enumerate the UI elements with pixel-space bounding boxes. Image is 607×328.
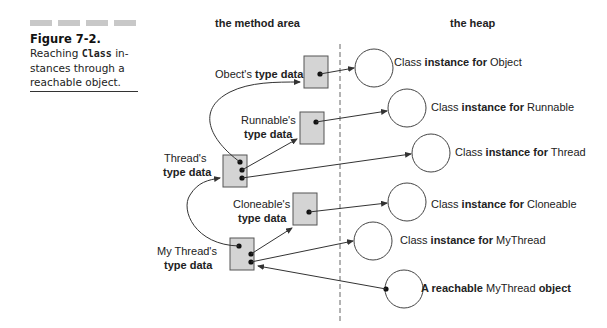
object-class-instance-circle <box>355 49 393 87</box>
runnable-class-instance-label: Class instance for Runnable <box>431 101 574 113</box>
mythread-class-instance-label: Class instance for MyThread <box>400 234 546 246</box>
cloneable-class-instance-circle <box>388 183 426 221</box>
thread-type-data-owner: Thread's <box>164 152 207 164</box>
thread-class-instance-label: Class instance for Thread <box>455 146 586 158</box>
runnable-type-data-owner: Runnable's <box>241 114 296 126</box>
cloneable-type-data-owner: Cloneable's <box>233 198 291 210</box>
reachable-object-label: A reachable MyThread object <box>421 282 571 294</box>
mythread-type-data-owner: My Thread's <box>157 245 217 257</box>
diagram: the method area the heap Obect's type da… <box>0 0 607 328</box>
cloneable-type-data-suffix: type data <box>238 212 287 224</box>
cloneable-class-instance-label: Class instance for Cloneable <box>431 198 577 210</box>
runnable-type-data-box <box>300 112 324 144</box>
reachable-object-circle <box>385 270 423 308</box>
mythread-type-data-suffix: type data <box>164 259 213 271</box>
cloneable-type-data-box <box>293 193 317 225</box>
object-type-data-box <box>304 56 328 88</box>
object-class-instance-label: Class instance for Object <box>394 56 522 68</box>
runnable-class-instance-circle <box>388 89 426 127</box>
heap-header: the heap <box>450 17 496 29</box>
object-type-data-label: Obect's type data <box>215 68 304 80</box>
runnable-type-data-suffix: type data <box>244 128 293 140</box>
thread-class-instance-circle <box>412 134 450 172</box>
mythread-class-instance-circle <box>354 222 392 260</box>
method-area-header: the method area <box>215 17 301 29</box>
thread-type-data-suffix: type data <box>163 166 212 178</box>
